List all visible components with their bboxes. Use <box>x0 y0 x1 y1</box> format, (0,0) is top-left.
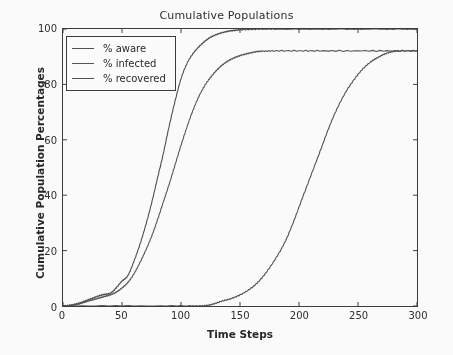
legend-label: % recovered <box>103 73 166 84</box>
y-tick-label: 20 <box>44 246 57 257</box>
x-tick-label: 50 <box>115 310 128 321</box>
y-tick-label: 0 <box>51 302 57 313</box>
legend-line-icon <box>72 48 94 49</box>
x-axis-label: Time Steps <box>62 328 418 340</box>
legend-label: % infected <box>103 58 156 69</box>
y-tick-label: 60 <box>44 134 57 145</box>
legend-item: % recovered <box>72 71 166 86</box>
chart-legend: % aware% infected% recovered <box>66 36 176 91</box>
legend-line-icon <box>72 78 94 79</box>
x-tick-label: 150 <box>230 310 249 321</box>
y-tick-label: 100 <box>38 23 57 34</box>
y-tick-label: 80 <box>44 78 57 89</box>
legend-label: % aware <box>103 43 146 54</box>
legend-line-icon <box>72 63 94 64</box>
y-tick-label: 40 <box>44 190 57 201</box>
x-tick-label: 250 <box>349 310 368 321</box>
chart-figure: Cumulative Populations 05010015020025030… <box>0 0 453 355</box>
x-tick-label: 100 <box>171 310 190 321</box>
y-axis-label: Cumulative Population Percentages <box>34 34 46 313</box>
x-tick-label: 300 <box>408 310 427 321</box>
legend-item: % aware <box>72 41 166 56</box>
x-tick-label: 0 <box>59 310 65 321</box>
x-tick-label: 200 <box>290 310 309 321</box>
legend-item: % infected <box>72 56 166 71</box>
chart-title: Cumulative Populations <box>0 9 453 22</box>
